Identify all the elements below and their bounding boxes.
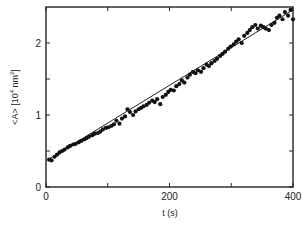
- x-tick-label: 400: [285, 191, 302, 202]
- data-point: [114, 119, 118, 123]
- data-point: [188, 73, 192, 77]
- data-point: [223, 50, 227, 54]
- data-point: [215, 57, 219, 61]
- data-point: [267, 28, 271, 32]
- data-point: [291, 17, 295, 21]
- data-point: [158, 102, 162, 106]
- data-point: [112, 122, 116, 126]
- data-point: [49, 158, 53, 162]
- data-point: [272, 21, 276, 25]
- x-tick-label: 200: [161, 191, 178, 202]
- data-point: [253, 23, 257, 27]
- data-point: [177, 82, 181, 86]
- y-axis-label: <A> [104 nm2]: [9, 69, 20, 125]
- data-point: [280, 17, 284, 21]
- data-point: [277, 14, 281, 18]
- x-axis-label: t (s): [162, 208, 178, 218]
- data-point: [283, 10, 287, 14]
- data-point: [256, 27, 260, 31]
- data-point: [182, 81, 186, 85]
- data-point: [237, 37, 241, 41]
- data-point: [199, 70, 203, 74]
- y-tick-label: 0: [35, 182, 41, 193]
- x-tick-label: 0: [43, 191, 49, 202]
- plot-frame: [46, 7, 293, 187]
- y-tick-label: 2: [35, 38, 41, 49]
- data-point: [288, 8, 292, 12]
- data-point: [201, 66, 205, 70]
- data-point: [128, 110, 132, 114]
- data-point: [172, 88, 176, 92]
- tick-labels: 0200400012: [35, 38, 301, 203]
- data-point: [117, 122, 121, 126]
- axis-ticks: [46, 7, 293, 187]
- data-point: [123, 114, 127, 118]
- chart: 0200400012 t (s) <A> [104 nm2]: [0, 0, 305, 229]
- y-tick-label: 1: [35, 110, 41, 121]
- data-point: [286, 14, 290, 18]
- data-point: [131, 113, 135, 117]
- data-point: [240, 41, 244, 45]
- data-point: [155, 97, 159, 101]
- data-point: [242, 34, 246, 38]
